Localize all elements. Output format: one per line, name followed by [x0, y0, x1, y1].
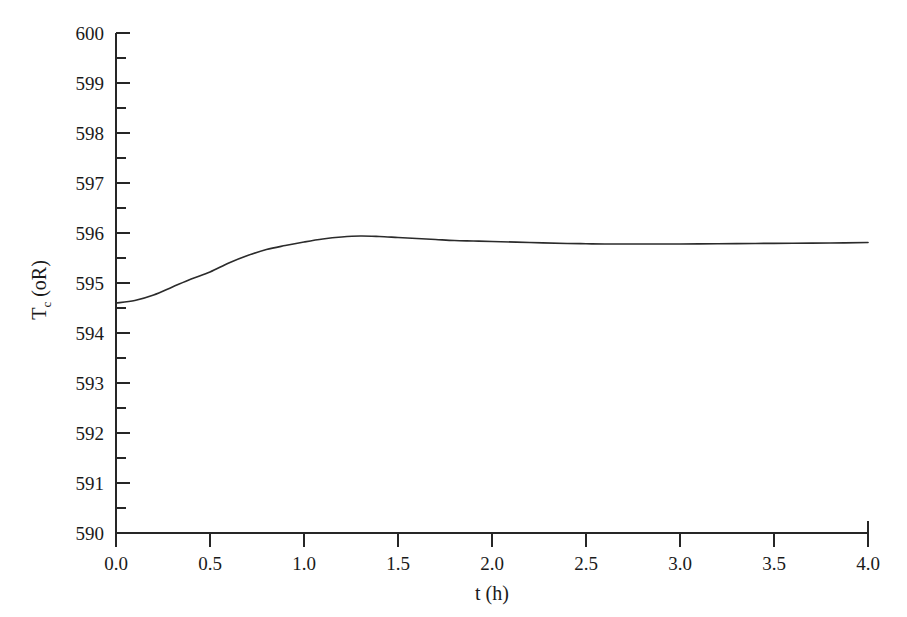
- y-tick-label: 595: [76, 273, 105, 294]
- x-tick-label: 4.0: [856, 553, 880, 574]
- svg-text:Tc (oR): Tc (oR): [28, 260, 54, 320]
- line-chart-plot: 600 599 598 597 596 595 594 593 592 591 …: [0, 0, 907, 617]
- chart-figure: 600 599 598 597 596 595 594 593 592 591 …: [0, 0, 907, 617]
- x-axis-major-ticks: [116, 533, 868, 547]
- axes-group: [116, 33, 868, 533]
- y-axis-label-units: (oR): [28, 260, 51, 297]
- x-tick-label: 1.5: [386, 553, 410, 574]
- x-tick-label: 2.0: [480, 553, 504, 574]
- x-tick-label: 2.5: [574, 553, 598, 574]
- y-tick-label: 599: [76, 73, 105, 94]
- x-tick-label: 0.5: [198, 553, 222, 574]
- y-tick-label: 593: [76, 373, 105, 394]
- x-tick-label: 1.0: [292, 553, 316, 574]
- y-tick-label: 594: [76, 323, 105, 344]
- y-tick-label: 597: [76, 173, 105, 194]
- y-tick-label: 598: [76, 123, 105, 144]
- y-tick-label: 600: [76, 23, 105, 44]
- x-tick-label: 3.0: [668, 553, 692, 574]
- y-axis-label-base: T: [28, 308, 50, 320]
- x-axis-label: t (h): [475, 582, 509, 605]
- y-tick-label: 592: [76, 423, 105, 444]
- y-tick-label: 591: [76, 473, 105, 494]
- y-axis-tick-labels: 600 599 598 597 596 595 594 593 592 591 …: [76, 23, 105, 544]
- data-series-line: [116, 236, 868, 303]
- y-tick-label: 596: [76, 223, 105, 244]
- x-tick-label: 3.5: [762, 553, 786, 574]
- y-tick-label: 590: [76, 523, 105, 544]
- x-axis-tick-labels: 0.0 0.5 1.0 1.5 2.0 2.5 3.0 3.5 4.0: [104, 553, 880, 574]
- y-axis-label: Tc (oR): [28, 260, 54, 320]
- x-tick-label: 0.0: [104, 553, 128, 574]
